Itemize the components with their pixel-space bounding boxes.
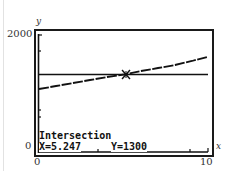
y-coordinate-readout: Y=1300 — [111, 142, 147, 152]
mode-label: Intersection — [39, 131, 111, 141]
x-axis-label: x — [216, 142, 221, 151]
calculator-graph-screen: Intersection X=5.247 Y=1300 — [34, 29, 214, 157]
x-coordinate-readout: X=5.247 — [39, 142, 81, 152]
page-border — [3, 0, 4, 171]
y-max-tick-label: 2000 — [7, 29, 32, 39]
y-min-tick-label: 0 — [25, 141, 31, 151]
x-max-tick-label: 10 — [200, 157, 213, 167]
increasing-line-series — [39, 57, 207, 89]
x-min-tick-label: 0 — [34, 157, 40, 167]
y-axis-label: y — [36, 17, 41, 26]
